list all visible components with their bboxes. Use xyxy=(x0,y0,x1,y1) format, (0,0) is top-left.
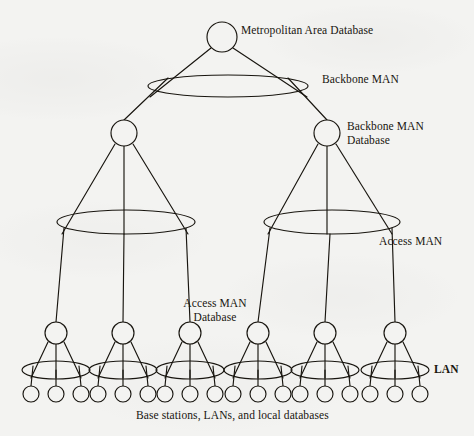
backbone-man-database-node-left xyxy=(111,120,137,146)
base-station-node-4 xyxy=(247,322,269,344)
local-database-node xyxy=(90,386,106,402)
access-man-left-ellipse xyxy=(57,210,195,234)
local-database-node xyxy=(73,386,89,402)
local-database-node xyxy=(412,386,428,402)
label-access-man-database-line2: Database xyxy=(170,311,260,325)
label-access-man-database-line1: Access MAN xyxy=(170,297,260,311)
base-station-node-1 xyxy=(45,322,67,344)
local-database-node xyxy=(23,386,39,402)
label-metropolitan-area-database: Metropolitan Area Database xyxy=(241,24,373,38)
base-station-node-6 xyxy=(384,322,406,344)
figure-caption: Base stations, LANs, and local databases xyxy=(136,409,329,423)
access-cluster-2 xyxy=(89,322,157,402)
label-access-man: Access MAN xyxy=(379,235,442,249)
edge-root-to-backbone xyxy=(150,48,307,97)
local-database-node xyxy=(387,386,403,402)
edge-tier2-right-fanout xyxy=(268,144,392,234)
local-database-node xyxy=(48,386,64,402)
edge-tier2-left-fanout xyxy=(62,144,188,234)
label-backbone-man-database-line1: Backbone MAN xyxy=(347,120,424,134)
access-cluster-4 xyxy=(224,322,292,402)
local-database-node xyxy=(250,386,266,402)
local-database-node xyxy=(317,386,333,402)
access-cluster-6 xyxy=(361,322,429,402)
access-cluster-1 xyxy=(22,322,90,402)
access-man-right-ellipse xyxy=(264,210,400,234)
local-database-node xyxy=(182,386,198,402)
local-database-node xyxy=(140,386,156,402)
base-station-node-3 xyxy=(179,322,201,344)
backbone-man-ellipse xyxy=(148,75,308,97)
access-cluster-5 xyxy=(291,322,359,402)
label-backbone-man-database: Backbone MAN Database xyxy=(347,120,424,147)
metropolitan-area-database-node xyxy=(207,22,237,52)
local-database-node xyxy=(157,386,173,402)
local-database-node xyxy=(292,386,308,402)
edge-backbone-to-tier2 xyxy=(124,78,327,120)
label-access-man-database: Access MAN Database xyxy=(170,297,260,324)
local-database-node xyxy=(207,386,223,402)
edge-access-right-to-base-stations xyxy=(258,228,395,322)
local-database-node xyxy=(225,386,241,402)
local-database-node xyxy=(342,386,358,402)
label-backbone-man: Backbone MAN xyxy=(322,73,399,87)
local-database-node xyxy=(362,386,378,402)
local-database-node xyxy=(115,386,131,402)
network-diagram-figure: Metropolitan Area Database Backbone MAN … xyxy=(0,0,474,436)
base-station-node-5 xyxy=(314,322,336,344)
backbone-man-database-node-right xyxy=(314,120,340,146)
label-lan: LAN xyxy=(434,363,459,377)
local-database-node xyxy=(275,386,291,402)
base-station-node-2 xyxy=(112,322,134,344)
topology-graphic xyxy=(0,0,474,436)
access-cluster-3 xyxy=(156,322,224,402)
label-backbone-man-database-line2: Database xyxy=(347,134,424,148)
